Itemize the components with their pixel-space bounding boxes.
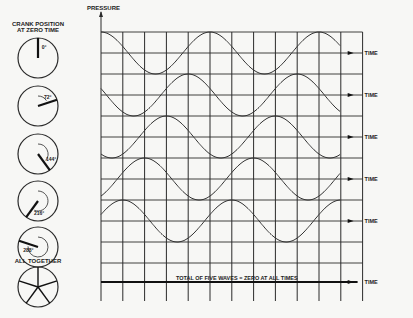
wave-chart: PRESSURE TIMETIMETIMETIMETIMETIME TOTAL …	[87, 5, 378, 301]
time-label: TIME	[365, 50, 378, 56]
total-caption: TOTAL OF FIVE WAVES = ZERO AT ALL TIMES	[176, 275, 298, 281]
crank-angle-label: 288°	[23, 247, 33, 253]
crank-diagram: 216°	[18, 181, 58, 221]
time-label: TIME	[365, 92, 378, 98]
crank-diagram: 72°	[18, 86, 58, 126]
time-arrow-icon	[348, 177, 354, 181]
pressure-arrow-icon	[99, 11, 103, 17]
pressure-diagram: CRANK POSITION AT ZERO TIME 0°72°144°216…	[0, 0, 413, 318]
time-arrow-icon	[348, 280, 354, 284]
time-arrow-icon	[348, 93, 354, 97]
crank-diagram: 144°	[18, 134, 58, 174]
all-together-diagram	[18, 267, 58, 307]
rotation-arc-icon	[34, 191, 48, 211]
time-arrow-icon	[348, 219, 354, 223]
all-together-label: ALL TOGETHER	[15, 258, 62, 264]
crank-title-line2: AT ZERO TIME	[17, 27, 59, 33]
pressure-axis-label: PRESSURE	[87, 5, 120, 11]
time-label: TIME	[365, 218, 378, 224]
time-label: TIME	[365, 279, 378, 285]
time-arrow-icon	[348, 135, 354, 139]
crank-angle-label: 72°	[44, 94, 52, 100]
crank-angle-label: 144°	[46, 156, 56, 162]
crank-panel: CRANK POSITION AT ZERO TIME 0°72°144°216…	[12, 21, 64, 307]
crank-arm	[38, 100, 57, 106]
time-label: TIME	[365, 176, 378, 182]
crank-angle-label: 0°	[42, 44, 47, 50]
time-arrow-icon	[348, 51, 354, 55]
crank-diagram: 0°	[18, 38, 58, 78]
crank-angle-label: 216°	[34, 210, 44, 216]
time-label: TIME	[365, 134, 378, 140]
